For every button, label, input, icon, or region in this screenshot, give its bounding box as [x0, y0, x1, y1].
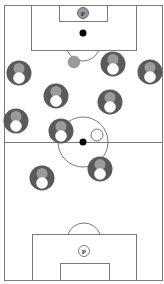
player-chest: [50, 95, 62, 107]
player-chest: [10, 120, 22, 132]
player-chest: [94, 168, 106, 180]
ball-icon: [80, 139, 87, 146]
penalty-spot-label: P: [81, 10, 86, 18]
player-icon: [4, 109, 29, 134]
player-chest: [144, 71, 156, 83]
player-chest: [13, 72, 25, 84]
penalty-spot-label: P: [82, 248, 87, 256]
bottom-penalty-arc: [68, 223, 100, 235]
player-icon: [88, 157, 113, 182]
player-chest: [36, 177, 48, 189]
penalty-spot-icon: P: [79, 246, 90, 257]
player-chest: [107, 63, 119, 75]
ball-icon: [80, 30, 87, 37]
grey-marker-icon: [68, 56, 80, 68]
bottom-penalty-box: [33, 235, 137, 281]
player-icon: [30, 166, 55, 191]
player-icon: [101, 52, 126, 77]
player-icon: [98, 90, 123, 115]
player-chest: [55, 130, 67, 142]
penalty-spot-icon: P: [78, 8, 89, 19]
player-icon: [138, 60, 163, 85]
players-layer: [4, 52, 163, 191]
player-chest: [104, 101, 116, 113]
white-marker-icon: [91, 129, 103, 141]
player-icon: [44, 84, 69, 109]
player-icon: [7, 61, 32, 86]
soccer-pitch: PP: [0, 0, 164, 284]
player-icon: [49, 119, 74, 144]
bottom-goal-box: [61, 264, 110, 281]
